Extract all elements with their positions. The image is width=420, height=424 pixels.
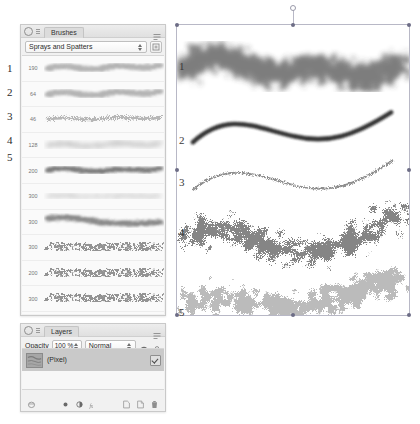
brush-list[interactable]: 1906446128200300300300200300200200200300	[22, 55, 164, 314]
stroke-4	[191, 214, 395, 252]
panel-annotation-4: 4	[7, 134, 13, 146]
stroke-3	[193, 160, 393, 190]
brush-list-item[interactable]: 300	[22, 184, 164, 210]
brush-size-label: 200	[22, 270, 44, 276]
brushes-panel: Brushes Sprays and Spatters 190644612820…	[20, 24, 166, 316]
panel-annotation-2: 2	[7, 86, 13, 98]
brush-list-item[interactable]: 46	[22, 107, 164, 133]
canvas-annotation-5: 5	[179, 306, 185, 318]
layers-toolbar-middle: fx	[61, 395, 98, 405]
brush-list-item[interactable]: 200	[22, 261, 164, 287]
layer-effects-icon[interactable]	[27, 395, 36, 405]
panel-annotation-3: 3	[7, 110, 13, 122]
adjustment-layer-icon[interactable]	[75, 395, 84, 405]
panel-close-icon[interactable]	[24, 326, 33, 335]
brushes-panel-titlebar[interactable]: Brushes	[21, 25, 165, 38]
mask-layer-icon[interactable]	[122, 395, 131, 405]
chevron-updown-icon[interactable]	[138, 43, 143, 52]
stroke-1	[189, 56, 397, 77]
canvas-selection-bounds	[176, 24, 410, 316]
layer-visibility-checkbox[interactable]	[150, 355, 161, 366]
panel-close-icon[interactable]	[24, 27, 33, 36]
panel-grip-icon[interactable]	[36, 327, 40, 334]
stroke-5	[191, 277, 395, 307]
brush-list-item[interactable]: 64	[22, 82, 164, 108]
canvas-annotation-3: 3	[179, 176, 185, 188]
brush-size-label: 46	[22, 116, 44, 122]
brush-size-label: 300	[22, 219, 44, 225]
brush-list-item[interactable]: 200	[22, 158, 164, 184]
panel-annotation-5: 5	[7, 151, 13, 163]
rotate-handle-stem	[293, 10, 294, 24]
canvas-annotation-4: 4	[179, 226, 185, 238]
brush-preview	[44, 312, 164, 314]
layers-toolbar-left	[27, 395, 36, 405]
selection-handle-e[interactable]	[407, 168, 411, 172]
delete-layer-icon[interactable]	[150, 395, 159, 405]
canvas-artwork	[177, 25, 409, 315]
selection-handle-nw[interactable]	[175, 23, 179, 27]
layers-panel-titlebar[interactable]: Layers	[21, 324, 165, 337]
brush-list-item[interactable]: 128	[22, 133, 164, 159]
svg-text:fx: fx	[89, 402, 93, 408]
panel-menu-icon[interactable]	[153, 27, 161, 35]
brush-preview	[44, 235, 164, 260]
brush-size-label: 300	[22, 244, 44, 250]
brush-preview	[44, 133, 164, 158]
layer-row[interactable]: (Pixel)	[22, 349, 164, 371]
brush-list-item[interactable]: 200	[22, 312, 164, 314]
brush-category-select[interactable]: Sprays and Spatters	[25, 41, 147, 53]
layers-toolbar: fx	[22, 390, 164, 410]
brush-preview	[44, 82, 164, 107]
brush-size-label: 64	[22, 91, 44, 97]
stroke-2	[193, 112, 391, 142]
brush-options-button[interactable]	[150, 41, 162, 53]
brush-size-label: 200	[22, 168, 44, 174]
brush-list-item[interactable]: 300	[22, 235, 164, 261]
layer-thumbnail	[26, 353, 43, 368]
canvas-selection[interactable]: 1 2 3 4 5	[176, 24, 410, 316]
brush-preview	[44, 107, 164, 132]
fx-icon[interactable]: fx	[89, 395, 98, 405]
layers-panel: Layers Opacity 100 % Normal	[20, 323, 166, 412]
selection-handle-se[interactable]	[407, 313, 411, 317]
tab-layers[interactable]: Layers	[44, 326, 79, 337]
brush-preview	[44, 158, 164, 183]
canvas-annotation-2: 2	[179, 134, 185, 146]
canvas-annotation-1: 1	[179, 60, 185, 72]
brush-preview	[44, 210, 164, 235]
brush-list-item[interactable]: 190	[22, 56, 164, 82]
panel-menu-icon[interactable]	[153, 326, 161, 334]
add-layer-icon[interactable]	[136, 395, 145, 405]
selection-handle-s[interactable]	[291, 313, 295, 317]
brush-size-label: 300	[22, 193, 44, 199]
selection-handle-n[interactable]	[291, 23, 295, 27]
rotate-handle[interactable]	[290, 5, 296, 11]
brush-options-icon	[152, 43, 160, 51]
brush-list-item[interactable]: 300	[22, 210, 164, 236]
panel-grip-icon[interactable]	[36, 28, 40, 35]
brush-size-label: 190	[22, 65, 44, 71]
brush-category-label: Sprays and Spatters	[29, 43, 92, 51]
brush-list-item[interactable]: 300	[22, 286, 164, 312]
tab-brushes[interactable]: Brushes	[44, 27, 84, 38]
fill-layer-icon[interactable]	[61, 395, 70, 405]
brush-category-row: Sprays and Spatters	[21, 38, 165, 56]
brush-preview	[44, 56, 164, 81]
selection-handle-w[interactable]	[175, 168, 179, 172]
brush-preview	[44, 184, 164, 209]
brush-preview	[44, 286, 164, 311]
brush-size-label: 128	[22, 142, 44, 148]
brush-preview	[44, 261, 164, 286]
selection-handle-ne[interactable]	[407, 23, 411, 27]
layer-list[interactable]: (Pixel)	[22, 348, 164, 390]
layers-toolbar-right	[122, 395, 159, 405]
layer-name: (Pixel)	[47, 356, 146, 364]
panel-annotation-1: 1	[7, 62, 13, 74]
brush-size-label: 300	[22, 296, 44, 302]
